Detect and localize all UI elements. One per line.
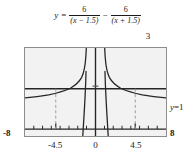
x-axis-left-endpoint-label: -8	[3, 128, 11, 138]
horizontal-asymptote-label: y=1	[170, 102, 184, 112]
equation-term2-numerator: 6	[122, 6, 130, 15]
curve-middle-right-segment	[105, 71, 108, 136]
figure-container: y = 6 (x − 1.5) − 6 (x + 1.5) 3	[0, 0, 195, 164]
equation-lhs: y	[54, 11, 58, 20]
equation-equals: =	[60, 11, 67, 20]
curve-middle-left-segment	[83, 71, 86, 136]
x-tick-label-4-5: 4.5	[123, 140, 149, 150]
equation-caption: y = 6 (x − 1.5) − 6 (x + 1.5)	[0, 6, 195, 25]
x-tick-label-neg-4-5: -4.5	[42, 140, 68, 150]
equation-operator: −	[102, 11, 109, 20]
equation-term2-fraction: 6 (x + 1.5)	[111, 6, 141, 25]
equation-term1-denominator: (x − 1.5)	[69, 16, 99, 25]
x-axis-tick-labels: -4.5 0 4.5	[24, 140, 167, 154]
horizontal-asymptote-label-value: 1	[179, 102, 184, 112]
x-axis-right-endpoint-label: 8	[170, 128, 175, 138]
plot-svg	[25, 48, 166, 136]
equation-term2-denominator: (x + 1.5)	[111, 16, 141, 25]
equation-term1-fraction: 6 (x − 1.5)	[69, 6, 99, 25]
y-max-label: 3	[141, 31, 155, 41]
x-tick-label-zero: 0	[83, 140, 109, 150]
equation-term1-numerator: 6	[80, 6, 88, 15]
plot-area	[24, 47, 167, 137]
